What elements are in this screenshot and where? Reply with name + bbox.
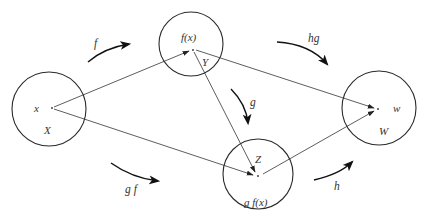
point-fx-label: f(x) (181, 31, 197, 44)
set-X-label: X (43, 124, 52, 136)
function-g-label: g (250, 96, 256, 109)
point-x-label: x (33, 102, 39, 114)
function-f-label: f (94, 37, 99, 50)
set-W-label: W (379, 125, 389, 137)
function-h-arrow (314, 162, 352, 180)
set-Y-label: Y (202, 56, 210, 68)
function-h-label: h (334, 180, 340, 192)
point-w (377, 108, 379, 110)
set-Z-label: Z (255, 153, 262, 165)
function-hg-arrow (277, 42, 327, 64)
mapping-x-to-gfx-arrow (54, 109, 253, 175)
function-composition-diagram: f hg g g f h X Y Z W x f(x) g f(x) w (0, 0, 430, 218)
mapping-x-to-fx-arrow (54, 51, 189, 107)
point-gfx (257, 175, 259, 177)
point-gfx-label: g f(x) (244, 196, 268, 209)
point-w-label: w (393, 102, 401, 114)
mapping-fx-to-w-arrow (196, 50, 374, 108)
function-hg-label: hg (308, 32, 320, 45)
set-Y-circle (159, 12, 223, 76)
function-gf-label: g f (125, 183, 139, 196)
point-x (51, 107, 53, 109)
function-g-arrow (231, 89, 248, 123)
point-fx (192, 49, 194, 51)
mapping-gfx-to-w-arrow (263, 111, 374, 174)
function-gf-arrow (111, 163, 158, 181)
